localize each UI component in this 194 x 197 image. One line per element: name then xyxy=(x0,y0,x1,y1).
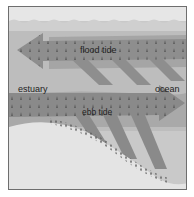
flood-tide-label: flood tide xyxy=(80,45,117,55)
ebb-tide-label: ebb tide xyxy=(82,107,112,117)
tide-diagram: flood tide ebb tide estuary ocean xyxy=(8,6,187,190)
sky xyxy=(9,7,187,21)
ocean-label: ocean xyxy=(155,84,180,94)
tide-illustration xyxy=(9,7,187,190)
estuary-label: estuary xyxy=(18,84,48,94)
